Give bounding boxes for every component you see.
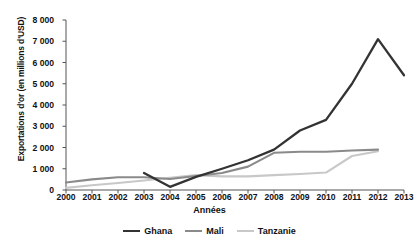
legend-label: Mali xyxy=(206,226,224,236)
legend-swatch-icon xyxy=(185,230,202,233)
legend-item-mali[interactable]: Mali xyxy=(185,226,224,236)
x-axis-tick-label: 2002 xyxy=(108,192,127,202)
legend-swatch-icon xyxy=(123,230,140,233)
legend-item-tanzanie[interactable]: Tanzanie xyxy=(237,226,296,236)
x-axis-tick-label: 2004 xyxy=(160,192,179,202)
series-line-ghana xyxy=(144,39,404,187)
legend-swatch-icon xyxy=(237,230,254,233)
x-axis-tick-label: 2001 xyxy=(82,192,101,202)
x-axis-tick-label: 2011 xyxy=(343,192,362,202)
x-axis-tick-label: 2013 xyxy=(394,192,413,202)
legend-label: Ghana xyxy=(144,226,172,236)
x-axis-tick-label: 2006 xyxy=(212,192,231,202)
legend-item-ghana[interactable]: Ghana xyxy=(123,226,172,236)
chart-legend: GhanaMaliTanzanie xyxy=(0,226,419,236)
x-axis-tick-label: 2009 xyxy=(290,192,309,202)
x-axis-tick-label: 2012 xyxy=(368,192,387,202)
x-axis-tick-label: 2007 xyxy=(238,192,257,202)
x-axis-tick-label: 2010 xyxy=(316,192,335,202)
x-axis-tick-label: 2005 xyxy=(186,192,205,202)
gold-exports-line-chart: Exportations d'or (en millions d'USD) 01… xyxy=(0,0,419,246)
legend-label: Tanzanie xyxy=(258,226,296,236)
x-axis-title: Années xyxy=(0,205,419,215)
x-axis-tick-label: 2003 xyxy=(134,192,153,202)
series-line-mali xyxy=(66,150,378,183)
x-axis-tick-label: 2008 xyxy=(264,192,283,202)
x-axis-tick-label: 2000 xyxy=(56,192,75,202)
